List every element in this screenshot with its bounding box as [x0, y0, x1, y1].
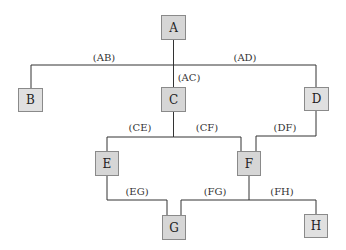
edge-FG [181, 200, 249, 215]
edge-label-AD: (AD) [233, 52, 256, 63]
edge-label-DF: (DF) [274, 122, 297, 133]
node-H: H [304, 214, 328, 238]
edge-CF [174, 137, 242, 151]
edge-FH [249, 200, 316, 214]
node-C: C [161, 87, 186, 112]
edge-AB [31, 65, 174, 88]
node-D: D [304, 87, 329, 111]
edge-label-CF: (CF) [196, 122, 218, 133]
node-E: E [95, 151, 119, 176]
edge-label-AB: (AB) [93, 52, 115, 63]
edge-label-EG: (EG) [125, 186, 148, 197]
node-B: B [18, 88, 43, 112]
edge-label-CE: (CE) [129, 122, 152, 133]
edge-label-FG: (FG) [204, 186, 227, 197]
node-F: F [237, 151, 261, 176]
node-G: G [162, 215, 186, 240]
edge-CE [107, 137, 174, 151]
edge-label-FH: (FH) [270, 186, 293, 197]
edge-label-AC: (AC) [178, 72, 201, 83]
node-A: A [161, 15, 186, 40]
